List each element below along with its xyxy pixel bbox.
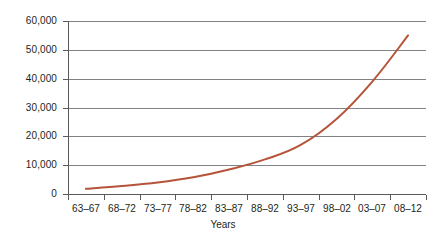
x-axis-label: 98–02: [323, 203, 351, 214]
x-axis-tick: [390, 195, 391, 200]
y-axis-label: 0: [51, 189, 57, 199]
x-axis-tick: [211, 195, 212, 200]
y-axis-label: 50,000: [26, 45, 57, 55]
x-axis-label: 63–67: [72, 203, 100, 214]
x-axis-label: 83–87: [215, 203, 243, 214]
x-axis-tick: [319, 195, 320, 200]
y-axis-line: [68, 21, 69, 195]
x-axis-label: 08–12: [394, 203, 422, 214]
x-axis-label: 88–92: [251, 203, 279, 214]
y-axis-label: 20,000: [26, 131, 57, 141]
plot-area: [68, 21, 426, 194]
series-line: [68, 21, 426, 194]
x-axis-label: 73–77: [144, 203, 172, 214]
y-axis-label: 40,000: [26, 74, 57, 84]
x-axis-tick: [354, 195, 355, 200]
x-axis-tick: [283, 195, 284, 200]
x-axis-label: 78–82: [179, 203, 207, 214]
y-axis-label: 10,000: [26, 160, 57, 170]
x-axis-tick: [426, 195, 427, 200]
x-axis-tick: [104, 195, 105, 200]
x-axis-label: 03–07: [358, 203, 386, 214]
x-axis-label: 93–97: [287, 203, 315, 214]
x-axis-tick: [68, 195, 69, 200]
x-axis-tick: [247, 195, 248, 200]
line-chart: 010,00020,00030,00040,00050,00060,000 63…: [0, 0, 446, 240]
x-axis-tick: [140, 195, 141, 200]
y-axis-label: 30,000: [26, 103, 57, 113]
x-axis-title: Years: [0, 219, 446, 230]
y-axis-label: 60,000: [26, 16, 57, 26]
x-axis-label: 68–72: [108, 203, 136, 214]
x-axis-tick: [175, 195, 176, 200]
